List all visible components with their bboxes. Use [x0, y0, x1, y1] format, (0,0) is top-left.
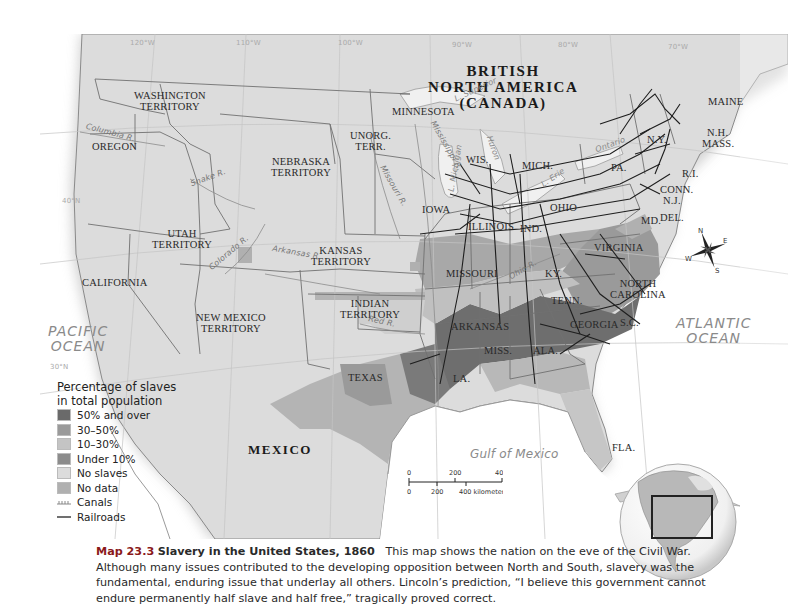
compass-e: E: [723, 237, 727, 245]
label-ohio: OHIO: [550, 202, 577, 213]
label-georgia: GEORGIA: [570, 319, 619, 330]
canal-icon: [57, 496, 71, 508]
label-maine: MAINE: [708, 96, 743, 107]
compass-rose-icon: N E W S: [683, 225, 733, 275]
label-gulf-of-mexico: Gulf of Mexico: [470, 448, 559, 461]
label-ala: ALA.: [533, 345, 558, 356]
label-minnesota: MINNESOTA: [392, 106, 455, 117]
label-ind: IND.: [520, 223, 542, 234]
label-lon-70: 70°W: [668, 44, 688, 51]
legend-item-railroads: Railroads: [57, 510, 176, 525]
legend-item-no-data: No data: [57, 481, 176, 496]
legend-item-30-50: 30–50%: [57, 423, 176, 438]
label-lon-100: 100°W: [338, 40, 363, 47]
label-mich: MICH.: [522, 160, 553, 171]
label-la: LA.: [453, 373, 470, 384]
map-caption: Map 23.3 Slavery in the United States, 1…: [96, 544, 716, 606]
label-arkansas: ARKANSAS: [451, 321, 509, 332]
scale-miles-200: 200: [449, 469, 461, 477]
legend-item-canals: Canals: [57, 495, 176, 510]
label-lat-40: 40°N: [62, 198, 80, 205]
caption-title: Slavery in the United States, 1860: [158, 545, 375, 558]
scale-bar: 0 200 400 miles 0 200 400 kilometers: [403, 468, 503, 500]
label-canada: BRITISH NORTH AMERICA (CANADA): [428, 64, 578, 111]
scale-miles-0: 0: [407, 469, 411, 477]
label-nh: N.H.: [707, 127, 728, 138]
label-mass: MASS.: [702, 138, 734, 149]
label-conn: CONN.: [660, 184, 693, 195]
label-unorg-terr: UNORG.TERR.: [350, 130, 391, 152]
compass-s: S: [715, 267, 720, 275]
label-new-mexico: NEW MEXICOTERRITORY: [196, 312, 266, 334]
label-california: CALIFORNIA: [82, 277, 148, 288]
label-nj: N.J.: [663, 195, 681, 206]
label-ky: KY.: [545, 268, 562, 279]
label-pa: PA.: [611, 162, 627, 173]
scale-km-200: 200: [431, 488, 443, 496]
label-del: DEL.: [660, 212, 684, 223]
label-ny: N.Y.: [647, 134, 667, 145]
label-iowa: IOWA: [422, 204, 450, 215]
legend-item-no-slaves: No slaves: [57, 466, 176, 481]
label-utah: UTAHTERRITORY: [152, 228, 212, 250]
legend-title: Percentage of slaves in total population: [57, 380, 176, 408]
label-lon-80: 80°W: [558, 42, 578, 49]
compass-n: N: [698, 227, 703, 235]
label-mexico: MEXICO: [248, 443, 312, 457]
caption-number: Map 23.3: [96, 545, 154, 558]
label-lat-30: 30°N: [50, 364, 68, 371]
label-illinois: ILLINOIS: [468, 221, 514, 232]
label-texas: TEXAS: [348, 372, 383, 383]
legend-item-under-10: Under 10%: [57, 452, 176, 467]
legend-item-50-and-over: 50% and over: [57, 408, 176, 423]
label-lon-90: 90°W: [452, 42, 472, 49]
compass-w: W: [685, 255, 692, 263]
railroad-icon: [57, 511, 71, 523]
label-tenn: TENN.: [551, 295, 583, 306]
legend-item-10-30: 10–30%: [57, 437, 176, 452]
label-pacific-ocean: PACIFIC OCEAN: [48, 324, 108, 353]
legend: Percentage of slaves in total population…: [57, 380, 176, 524]
label-north-carolina: NORTHCAROLINA: [610, 278, 666, 300]
scale-km-0: 0: [407, 488, 411, 496]
label-lon-120: 120°W: [130, 40, 155, 47]
label-fla: FLA.: [612, 442, 635, 453]
label-virginia: VIRGINIA: [594, 242, 643, 253]
label-miss: MISS.: [484, 345, 512, 356]
label-md: MD.: [641, 215, 661, 226]
scale-miles-400: 400 miles: [495, 469, 503, 477]
label-atlantic-ocean: ATLANTIC OCEAN: [676, 316, 751, 345]
label-missouri: MISSOURI: [446, 268, 498, 279]
label-nebraska: NEBRASKATERRITORY: [271, 156, 331, 178]
scale-km-400: 400 kilometers: [459, 488, 503, 496]
label-wis: WIS.: [466, 154, 489, 165]
label-ri: R.I.: [682, 168, 699, 179]
label-lon-110: 110°W: [236, 40, 261, 47]
label-sc: S.C.: [620, 317, 639, 328]
label-washington: WASHINGTONTERRITORY: [134, 90, 206, 112]
